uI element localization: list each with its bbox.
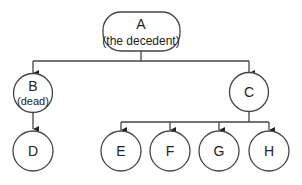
node-c-label: C — [244, 84, 254, 100]
node-a-sublabel: (the decedent) — [102, 34, 179, 48]
node-a: A (the decedent) — [102, 12, 180, 51]
node-b-label: B — [28, 78, 37, 94]
node-h: H — [249, 131, 289, 171]
node-f: F — [150, 131, 190, 171]
node-h-label: H — [264, 143, 274, 159]
node-f-label: F — [166, 143, 175, 159]
connector-a-children — [33, 51, 249, 73]
node-b: B (dead) — [14, 74, 53, 113]
node-c: C — [230, 73, 269, 112]
node-d-label: D — [28, 143, 38, 159]
node-e: E — [101, 131, 141, 171]
node-g-label: G — [214, 143, 225, 159]
node-g: G — [199, 131, 239, 171]
node-b-sublabel: (dead) — [17, 95, 49, 107]
connector-c-children — [121, 111, 269, 130]
node-a-label: A — [136, 16, 146, 32]
node-d: D — [13, 131, 53, 171]
node-e-label: E — [116, 143, 125, 159]
family-tree-diagram: A (the decedent) B (dead) C D E F G H — [0, 0, 302, 185]
